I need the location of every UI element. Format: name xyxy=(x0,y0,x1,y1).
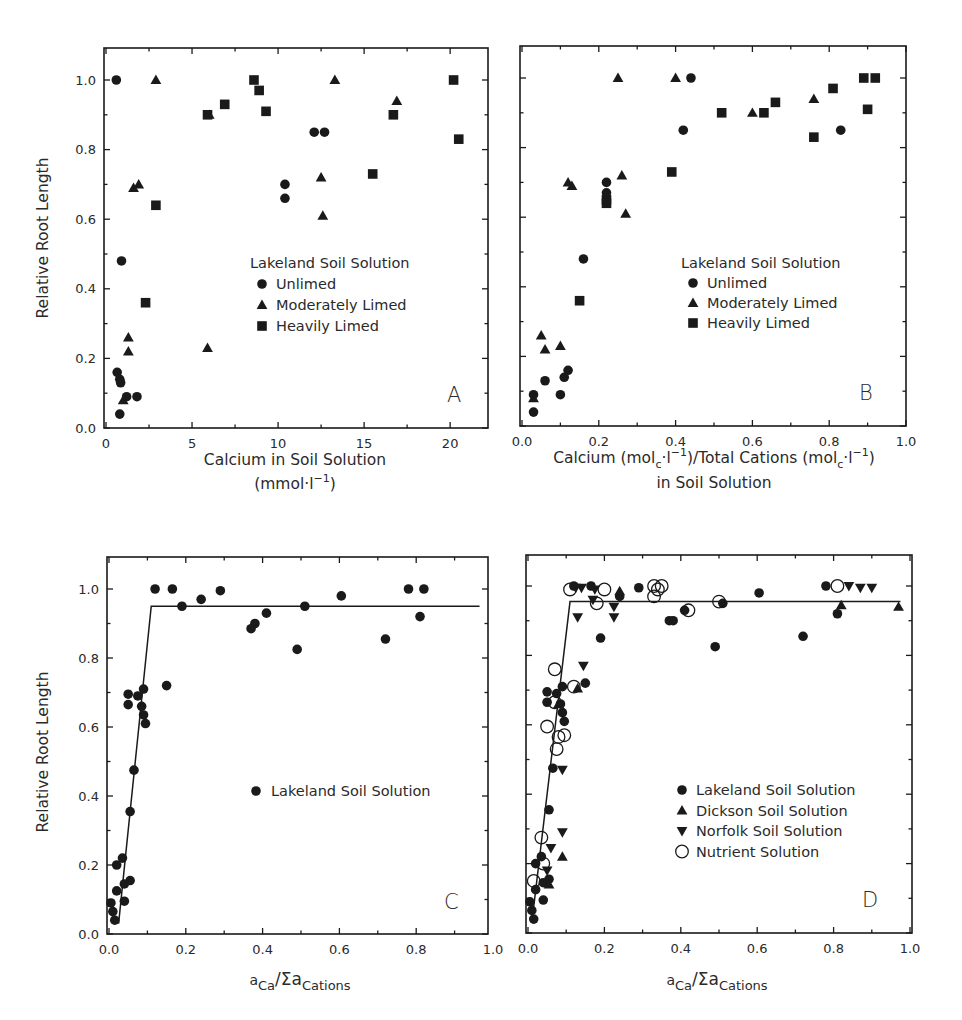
data-point xyxy=(525,897,535,907)
x-tick-label: 5 xyxy=(188,436,196,451)
x-tick-label: 0.6 xyxy=(747,941,768,956)
data-point xyxy=(556,390,566,400)
data-point xyxy=(106,898,116,908)
data-point xyxy=(652,583,665,596)
data-point xyxy=(150,584,160,594)
data-point xyxy=(581,678,591,688)
data-point xyxy=(123,689,133,699)
panel-label: D xyxy=(862,888,878,912)
series-moderately-limed xyxy=(118,75,402,405)
y-tick-label: 0.0 xyxy=(78,927,99,942)
data-point xyxy=(246,624,256,634)
legend-marker-icon xyxy=(257,279,267,289)
data-point xyxy=(133,179,144,188)
y-tick-label: 0.2 xyxy=(78,858,99,873)
data-point xyxy=(168,584,178,594)
data-point xyxy=(141,298,151,308)
panel-label: C xyxy=(444,890,459,914)
data-point xyxy=(759,108,769,118)
data-point xyxy=(391,95,402,104)
data-point xyxy=(261,107,271,117)
data-point xyxy=(616,170,627,179)
data-point xyxy=(863,105,873,115)
data-point xyxy=(531,859,541,869)
legend-marker-icon xyxy=(677,805,688,814)
data-point xyxy=(540,344,551,353)
legend-entry: Norfolk Soil Solution xyxy=(696,823,843,839)
data-point xyxy=(754,588,764,598)
legend-marker-icon xyxy=(688,278,698,288)
x-tick-label: 1.0 xyxy=(900,941,921,956)
data-point xyxy=(117,256,127,266)
data-point xyxy=(544,805,554,815)
data-point xyxy=(747,107,758,116)
data-point xyxy=(531,885,541,895)
data-point xyxy=(771,98,781,108)
legend: Lakeland Soil SolutionUnlimedModerately … xyxy=(250,255,410,334)
x-axis-title: aCa/ΣaCations xyxy=(666,969,767,993)
data-point xyxy=(137,702,147,712)
data-point xyxy=(557,766,568,775)
data-point xyxy=(668,616,678,626)
legend-title: Lakeland Soil Solution xyxy=(681,255,841,271)
data-point xyxy=(609,603,620,612)
x-tick-label: 0.4 xyxy=(670,941,691,956)
legend-marker-icon xyxy=(688,298,699,307)
data-point xyxy=(300,601,310,611)
data-point xyxy=(254,86,264,96)
data-point xyxy=(139,684,149,694)
plot-frame xyxy=(526,555,912,933)
legend-marker-icon xyxy=(677,785,687,795)
legend-marker-icon xyxy=(677,827,688,836)
legend-title: Lakeland Soil Solution xyxy=(250,255,410,271)
legend-entry: Nutrient Solution xyxy=(696,844,819,860)
legend: Lakeland Soil SolutionUnlimedModerately … xyxy=(681,255,841,331)
data-point xyxy=(115,409,125,419)
data-point xyxy=(415,612,425,622)
data-point xyxy=(203,110,213,120)
series-lakeland-soil-solution xyxy=(106,584,429,925)
x-tick-label: 1.0 xyxy=(483,942,504,957)
x-tick-label: 20 xyxy=(442,436,459,451)
legend-marker-icon xyxy=(257,321,267,331)
data-point xyxy=(120,896,130,906)
data-point xyxy=(609,613,620,622)
data-point xyxy=(859,73,869,83)
legend-entry: Heavily Limed xyxy=(707,315,810,331)
x-axis-title: Calcium in Soil Solution xyxy=(204,451,386,469)
legend: Lakeland Soil Solution xyxy=(251,783,430,799)
data-point xyxy=(112,75,122,85)
data-point xyxy=(529,407,539,417)
legend-entry: Moderately Limed xyxy=(707,295,838,311)
x-tick-label: 0.8 xyxy=(819,434,840,449)
data-point xyxy=(141,719,151,729)
data-point xyxy=(316,172,327,181)
y-tick-label: 0.4 xyxy=(78,789,99,804)
data-point xyxy=(538,895,548,905)
data-point xyxy=(678,125,688,135)
data-point xyxy=(129,765,139,775)
data-point xyxy=(578,662,589,671)
plot-frame xyxy=(520,46,906,426)
data-point xyxy=(112,886,122,896)
data-point xyxy=(548,663,561,676)
legend-marker-icon xyxy=(688,318,698,328)
panel-label: B xyxy=(859,381,873,405)
data-point xyxy=(202,343,213,352)
data-point xyxy=(821,581,831,591)
y-tick-label: 0.8 xyxy=(78,651,99,666)
data-point xyxy=(151,200,161,210)
data-point xyxy=(833,609,843,619)
data-point xyxy=(116,378,126,388)
data-point xyxy=(602,198,612,208)
data-point xyxy=(454,134,464,144)
x-tick-label: 0.8 xyxy=(406,942,427,957)
y-tick-label: 1.0 xyxy=(75,73,96,88)
data-point xyxy=(614,586,625,595)
data-point xyxy=(809,132,819,142)
data-point xyxy=(557,828,568,837)
x-tick-label: 0.6 xyxy=(742,434,763,449)
data-point xyxy=(220,100,230,110)
x-tick-label: 0.2 xyxy=(588,434,609,449)
data-point xyxy=(559,372,569,382)
